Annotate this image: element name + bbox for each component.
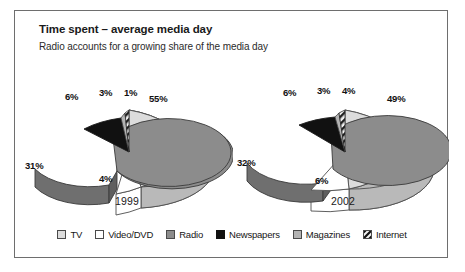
pie-1999-label-newspapers: 6% (65, 91, 78, 102)
pie-1999-year-label: 1999 (21, 195, 233, 207)
pie-2002-label-internet: 4% (342, 85, 355, 96)
pie-2002-slice-radio (331, 116, 449, 186)
pie-1999-slice-radio-top (113, 119, 231, 187)
chart-title: Time spent – average media day (39, 23, 212, 35)
pie-2002-label-newspapers: 6% (283, 87, 296, 98)
legend-item-tv: TV (57, 229, 82, 240)
legend-swatch-magazines (293, 230, 302, 239)
pie-panel-2002: 49% 6% 32% 6% 3% 4% 2002 (237, 63, 449, 223)
legend-swatch-tv (57, 230, 66, 239)
pie-1999-label-radio: 31% (25, 160, 43, 171)
legend-label-internet: Internet (376, 229, 407, 240)
legend-label-magazines: Magazines (306, 229, 350, 240)
pie-1999-label-internet: 1% (124, 87, 137, 98)
legend-label-tv: TV (70, 229, 82, 240)
legend-label-radio: Radio (179, 229, 203, 240)
pie-panel-1999: 55% 4% 31% 6% 3% 1% 1999 (21, 63, 233, 223)
legend-label-video-dvd: Video/DVD (108, 229, 153, 240)
pie-1999-label-video: 4% (99, 173, 112, 184)
chart-subtitle: Radio accounts for a growing share of th… (39, 41, 268, 52)
legend-label-newspapers: Newspapers (229, 229, 280, 240)
pie-2002-label-video: 6% (315, 175, 328, 186)
legend-item-internet: Internet (363, 229, 407, 240)
legend-swatch-newspapers (216, 230, 225, 239)
pie-2002-year-label: 2002 (237, 195, 449, 207)
legend-swatch-radio (166, 230, 175, 239)
chart-legend: TV Video/DVD Radio Newspapers Magazines (15, 229, 449, 240)
legend-item-radio: Radio (166, 229, 203, 240)
legend-swatch-internet (363, 230, 372, 239)
legend-item-video-dvd: Video/DVD (95, 229, 153, 240)
pie-2002-label-tv: 49% (387, 93, 405, 104)
legend-swatch-video-dvd (95, 230, 104, 239)
legend-item-newspapers: Newspapers (216, 229, 280, 240)
pie-1999-label-magazines: 3% (99, 87, 112, 98)
pie-2002-label-radio: 32% (237, 157, 255, 168)
pie-2002-label-magazines: 3% (317, 85, 330, 96)
pie-1999-label-tv: 55% (149, 93, 167, 104)
legend-item-magazines: Magazines (293, 229, 350, 240)
chart-figure-frame: Time spent – average media day Radio acc… (14, 10, 448, 258)
